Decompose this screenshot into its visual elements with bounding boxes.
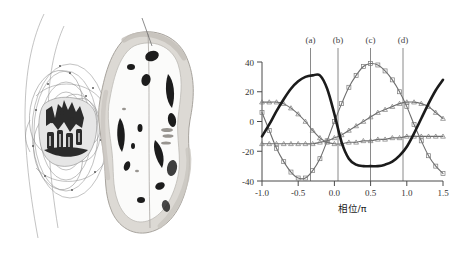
y-tick-label-20: 20 bbox=[245, 87, 255, 97]
x-tick-label-0: 0.0 bbox=[329, 188, 341, 198]
x-tick-label-1: 1.0 bbox=[401, 188, 413, 198]
annotation-label-c: (c) bbox=[366, 35, 376, 45]
rendering-image bbox=[0, 0, 240, 258]
x-tick-label-15: 1.5 bbox=[437, 188, 449, 198]
chart-background bbox=[240, 0, 465, 258]
y-tick-label-m40: -40 bbox=[242, 177, 254, 187]
scientific-rendering-panel bbox=[0, 0, 240, 258]
x-tick-label-m05: -0.5 bbox=[291, 188, 306, 198]
y-tick-label-40: 40 bbox=[245, 58, 255, 68]
x-tick-label-05: 0.5 bbox=[365, 188, 377, 198]
x-axis-title: 相位/π bbox=[338, 203, 367, 214]
organic-shell bbox=[99, 32, 194, 233]
y-tick-label-0: 0 bbox=[250, 117, 255, 127]
chart-panel: (a) (b) (c) (d) 40 20 0 -20 -40 bbox=[240, 0, 465, 258]
figure-root: (a) (b) (c) (d) 40 20 0 -20 -40 bbox=[0, 0, 465, 258]
annotation-label-a: (a) bbox=[306, 35, 316, 45]
y-tick-label-m20: -20 bbox=[242, 147, 254, 157]
annotation-label-b: (b) bbox=[333, 35, 344, 45]
annotation-label-d: (d) bbox=[398, 35, 409, 45]
x-tick-label-m1: -1.0 bbox=[255, 188, 270, 198]
line-chart: (a) (b) (c) (d) 40 20 0 -20 -40 bbox=[240, 0, 465, 258]
